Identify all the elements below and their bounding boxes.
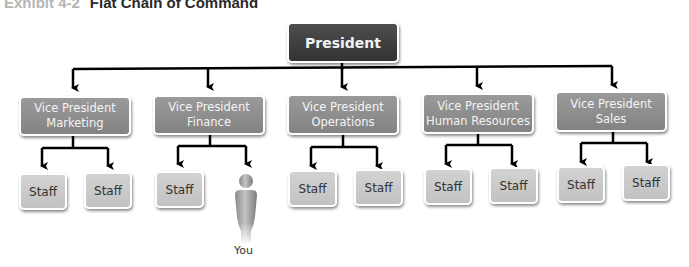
vp-title: Vice President [426,99,530,114]
staff-box: Staff [354,169,403,206]
vp-sales-box: Vice PresidentSales [555,91,667,132]
staff-label: Staff [166,183,194,197]
vp-title: Vice President [570,97,652,112]
president-label: President [305,35,381,51]
person-you-icon [233,173,259,245]
president-box: President [287,22,399,63]
staff-box: Staff [489,167,538,204]
staff-box: Staff [19,173,67,210]
staff-box: Staff [288,170,337,207]
vp-operations-box: Vice PresidentOperations [287,94,399,135]
you-label: You [234,244,253,257]
vp-finance-box: Vice PresidentFinance [153,95,265,135]
vp-department: Human Resources [426,114,530,129]
staff-label: Staff [567,178,595,192]
staff-label: Staff [94,184,122,198]
staff-box: Staff [155,171,204,208]
staff-label: Staff [29,185,57,199]
vp-department: Finance [168,115,250,130]
vp-human-resources-box: Vice PresidentHuman Resources [422,93,534,134]
vp-marketing-box: Vice PresidentMarketing [19,96,131,136]
staff-label: Staff [632,176,660,190]
staff-label: Staff [365,181,393,195]
staff-box: Staff [424,168,472,205]
staff-box: Staff [84,172,132,209]
staff-label: Staff [434,180,462,194]
vp-title: Vice President [302,100,384,115]
vp-title: Vice President [34,101,116,116]
vp-title: Vice President [168,100,250,115]
staff-label: Staff [500,179,528,193]
staff-box: Staff [557,166,605,203]
staff-label: Staff [299,182,327,196]
vp-department: Operations [302,115,384,130]
staff-box: Staff [622,164,670,201]
vp-department: Sales [570,112,652,127]
vp-department: Marketing [34,116,116,131]
